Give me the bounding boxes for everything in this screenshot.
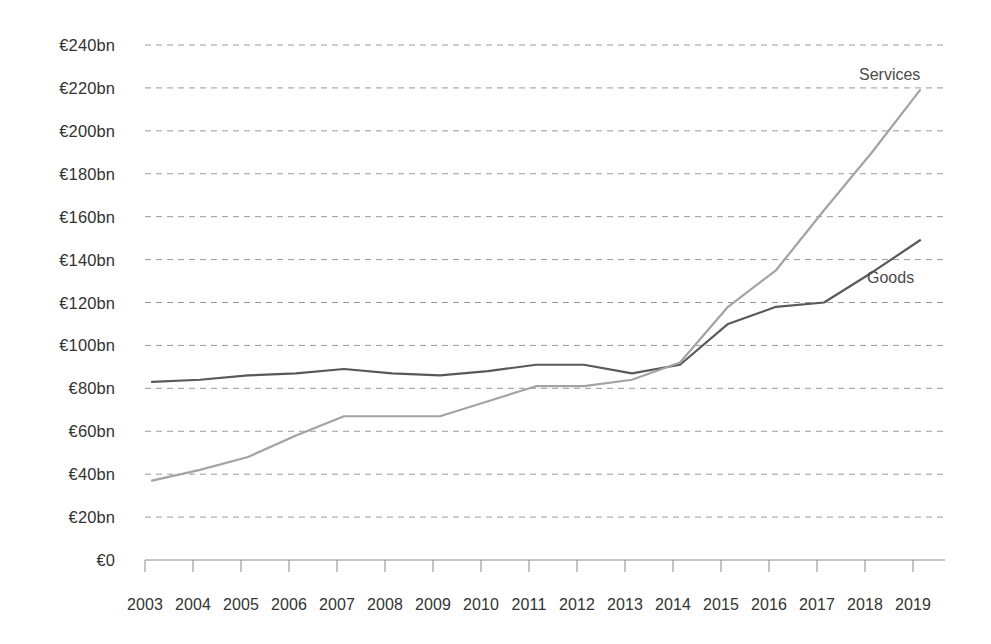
x-axis-tick-label: 2018 [847, 596, 883, 614]
x-axis-tick-label: 2008 [367, 596, 403, 614]
x-axis-tick-label: 2011 [512, 596, 547, 614]
x-axis-tick-label: 2015 [703, 596, 739, 614]
series-line-goods [152, 240, 920, 382]
x-axis-tick-label: 2017 [799, 596, 835, 614]
y-axis-tick-label: €220bn [0, 78, 115, 97]
y-axis-tick-label: €120bn [0, 293, 115, 312]
x-axis-tick-label: 2003 [127, 596, 163, 614]
x-axis-tick-label: 2013 [607, 596, 643, 614]
gridlines-group [145, 45, 945, 517]
x-axis-tick-label: 2016 [751, 596, 787, 614]
y-axis-tick-label: €180bn [0, 164, 115, 183]
y-axis-tick-label: €200bn [0, 121, 115, 140]
x-axis-tick-label: 2007 [319, 596, 355, 614]
series-line-services [152, 90, 920, 481]
x-tick-marks-group [145, 560, 913, 572]
y-axis-tick-label: €40bn [0, 465, 115, 484]
x-axis-tick-label: 2014 [655, 596, 691, 614]
y-axis-tick-label: €160bn [0, 207, 115, 226]
y-axis-tick-label: €60bn [0, 422, 115, 441]
line-chart: €240bn€220bn€200bn€180bn€160bn€140bn€120… [0, 0, 991, 644]
series-label-goods: Goods [867, 269, 914, 287]
y-axis-tick-label: €240bn [0, 36, 115, 55]
x-axis-tick-label: 2010 [463, 596, 499, 614]
x-axis-tick-label: 2009 [415, 596, 451, 614]
y-axis-tick-label: €100bn [0, 336, 115, 355]
y-axis-tick-label: €0 [0, 551, 115, 570]
x-axis-tick-label: 2005 [223, 596, 259, 614]
series-label-services: Services [859, 66, 920, 84]
x-axis-tick-label: 2004 [175, 596, 211, 614]
y-axis-tick-label: €140bn [0, 250, 115, 269]
y-axis-tick-label: €80bn [0, 379, 115, 398]
series-lines-group [152, 90, 920, 481]
x-axis-tick-label: 2012 [559, 596, 595, 614]
x-axis-tick-label: 2006 [271, 596, 307, 614]
x-axis-tick-label: 2019 [895, 596, 931, 614]
chart-plot-area [0, 0, 991, 644]
y-axis-tick-label: €20bn [0, 508, 115, 527]
